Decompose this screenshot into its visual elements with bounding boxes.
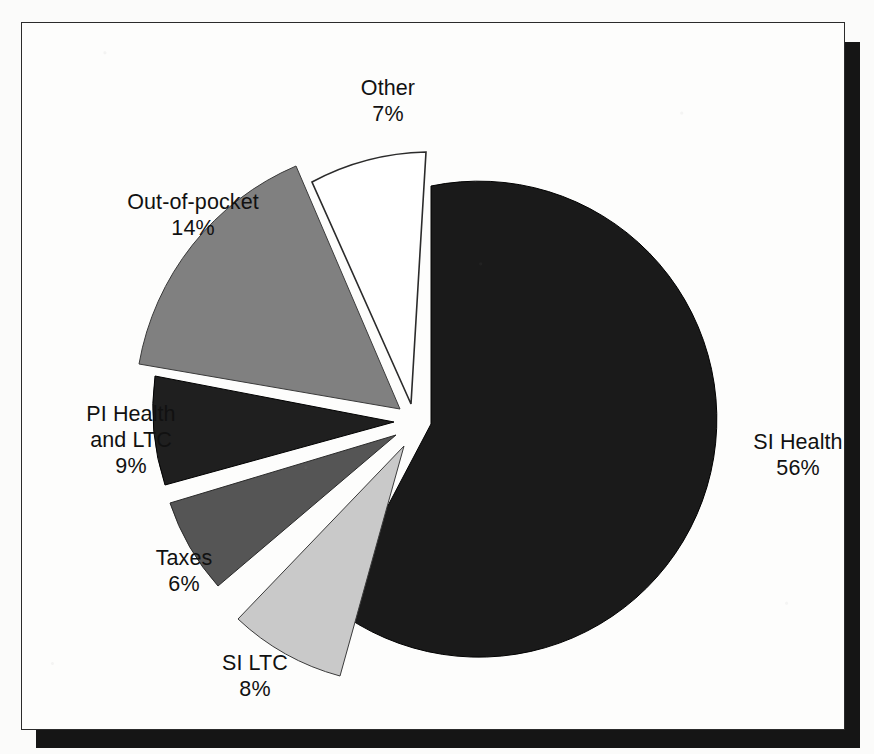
pie-label-out-of-pocket: Out-of-pocket 14% (90, 189, 296, 241)
pie-label-other-percent: 7% (328, 101, 448, 127)
pie-label-out-of-pocket-percent: 14% (90, 215, 296, 241)
pie-label-pi-health-ltc-percent: 9% (56, 453, 206, 479)
pie-label-si-ltc: SI LTC 8% (190, 650, 320, 702)
pie-label-si-health-percent: 56% (728, 455, 868, 481)
pie-label-si-ltc-name: SI LTC (190, 650, 320, 676)
pie-label-other-name: Other (328, 75, 448, 101)
pie-label-si-ltc-percent: 8% (190, 676, 320, 702)
pie-label-other: Other 7% (328, 75, 448, 127)
pie-label-out-of-pocket-name: Out-of-pocket (90, 189, 296, 215)
chart-frame: Other 7% Out-of-pocket 14% PI Health and… (21, 22, 845, 730)
pie-label-taxes-name: Taxes (124, 545, 244, 571)
pie-label-taxes-percent: 6% (124, 571, 244, 597)
pie-label-si-health: SI Health 56% (728, 429, 868, 481)
pie-chart: Other 7% Out-of-pocket 14% PI Health and… (22, 23, 844, 729)
pie-label-taxes: Taxes 6% (124, 545, 244, 597)
pie-label-pi-health-ltc-name2: and LTC (56, 427, 206, 453)
pie-label-si-health-name: SI Health (728, 429, 868, 455)
pie-chart-svg (22, 23, 844, 728)
pie-label-pi-health-ltc-name: PI Health (56, 401, 206, 427)
pie-label-pi-health-ltc: PI Health and LTC 9% (56, 401, 206, 479)
